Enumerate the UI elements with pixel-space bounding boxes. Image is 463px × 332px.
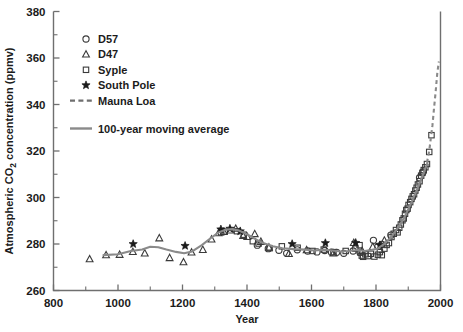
mauna-loa-line <box>427 61 439 162</box>
data-point-d57 <box>370 237 376 243</box>
data-point-south-pole <box>181 242 189 250</box>
data-point-d47 <box>156 234 163 240</box>
data-point-south-pole <box>321 239 329 247</box>
legend-label: D57 <box>98 33 118 45</box>
legend-label: Syple <box>98 64 127 76</box>
data-point-d47 <box>251 230 258 236</box>
legend-label: Mauna Loa <box>98 95 156 107</box>
legend-item-d47: D47 <box>83 48 119 60</box>
y-axis-title: Atmospheric CO2 concentration (ppmv) <box>3 47 18 254</box>
circle-open-icon <box>83 36 89 42</box>
data-point-d47 <box>166 254 173 260</box>
y-tick-label: 360 <box>26 52 45 64</box>
square-open-icon <box>83 67 88 72</box>
x-tick-label: 1200 <box>170 297 196 309</box>
axis-labels-layer: 2602803003203403603808001000120014001600… <box>3 6 453 325</box>
moving-average-line <box>103 163 427 256</box>
legend-item-100-year-moving-average: 100-year moving average <box>70 123 229 135</box>
legend-item-south-pole: South Pole <box>82 79 156 91</box>
x-tick-label: 800 <box>44 297 63 309</box>
star-filled-icon <box>82 81 90 89</box>
chart-figure: 2602803003203403603808001000120014001600… <box>0 0 463 332</box>
chart-legend: D57D47SypleSouth PoleMauna Loa100-year m… <box>70 33 229 135</box>
triangle-open-icon <box>83 51 90 57</box>
legend-item-mauna-loa: Mauna Loa <box>70 95 156 107</box>
legend-label: South Pole <box>98 79 155 91</box>
data-point-d47 <box>86 255 93 261</box>
y-tick-label: 260 <box>26 285 45 297</box>
legend-label: 100-year moving average <box>98 123 229 135</box>
x-tick-label: 2000 <box>428 297 454 309</box>
y-tick-label: 340 <box>26 99 45 111</box>
x-tick-label: 1600 <box>299 297 325 309</box>
y-tick-label: 280 <box>26 238 45 250</box>
x-tick-label: 1800 <box>363 297 389 309</box>
legend-item-d57: D57 <box>83 33 118 45</box>
x-tick-label: 1400 <box>234 297 260 309</box>
data-point-d47 <box>180 258 187 264</box>
legend-label: D47 <box>98 48 118 60</box>
y-tick-label: 320 <box>26 145 45 157</box>
data-point-south-pole <box>129 240 137 248</box>
co2-concentration-chart: 2602803003203403603808001000120014001600… <box>0 0 463 332</box>
legend-item-syple: Syple <box>83 64 127 76</box>
x-axis-title: Year <box>235 313 259 325</box>
y-tick-label: 300 <box>26 192 45 204</box>
x-tick-label: 1000 <box>105 297 131 309</box>
y-tick-label: 380 <box>26 6 45 18</box>
